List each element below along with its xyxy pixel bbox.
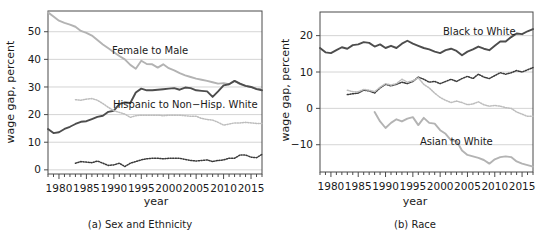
series-label-black-to-white: Black to White	[443, 26, 516, 37]
series-label-female-to-male: Female to Male	[112, 45, 188, 56]
panel-a-ytick-labels: 01020304050	[28, 25, 41, 175]
xtick-label: 1995	[128, 182, 155, 194]
xtick-label: 1995	[399, 180, 426, 192]
panel-a-ylabel: wage gap, percent	[4, 40, 17, 144]
ytick-label: 20	[28, 108, 41, 120]
xtick-label: 1980	[318, 180, 345, 192]
panel-a-frame	[48, 11, 262, 174]
xtick-label: 2010	[210, 182, 237, 194]
xtick-label: 2005	[183, 182, 210, 194]
xtick-label: 2000	[427, 180, 454, 192]
xtick-label: 1985	[73, 182, 100, 194]
panel-a-xtick-labels: 19801985199019952000200520102015	[46, 182, 265, 194]
ytick-label: 40	[28, 53, 41, 65]
xtick-label: 2015	[509, 180, 536, 192]
ytick-label: −10	[291, 138, 313, 150]
xtick-label: 1980	[46, 182, 73, 194]
series-line-dark-dotted-series	[75, 154, 262, 166]
panel-a-svg: 01020304050 1980198519901995200020052010…	[0, 0, 275, 241]
ytick-label: 30	[28, 81, 41, 93]
chart-panel-sex-and-ethnicity: 01020304050 1980198519901995200020052010…	[0, 0, 275, 241]
panel-a-series-group	[48, 12, 262, 166]
xtick-label: 2005	[454, 180, 481, 192]
panel-b-svg: −1001020 1980198519901995200020052010201…	[275, 0, 550, 241]
xtick-label: 2015	[238, 182, 265, 194]
xtick-label: 1990	[372, 180, 399, 192]
series-label-hispanic-to-non-hisp-white: Hispanic to Non−Hisp. White	[113, 99, 258, 110]
panel-b-xtick-labels: 19801985199019952000200520102015	[318, 180, 536, 192]
panel-b-ytick-labels: −1001020	[291, 29, 313, 150]
ytick-label: 20	[300, 29, 313, 41]
panel-a-caption: (a) Sex and Ethnicity	[88, 219, 192, 230]
ytick-label: 10	[300, 66, 313, 78]
ytick-label: 50	[28, 25, 41, 37]
panel-b-ylabel: wage gap, percent	[279, 38, 292, 142]
ytick-label: 0	[306, 102, 313, 114]
panel-a-xlabel: year	[144, 195, 169, 208]
panel-b-xlabel: year	[403, 195, 428, 208]
xtick-label: 1985	[345, 180, 372, 192]
series-label-asian-to-white: Asian to White	[420, 136, 493, 147]
panel-b-gridlines	[320, 36, 533, 145]
chart-panel-race: −1001020 1980198519901995200020052010201…	[275, 0, 550, 241]
figure-wage-gap-charts: 01020304050 1980198519901995200020052010…	[0, 0, 550, 241]
ytick-label: 0	[34, 163, 41, 175]
xtick-label: 1990	[100, 182, 127, 194]
panel-b-caption: (b) Race	[394, 219, 436, 230]
ytick-label: 10	[28, 136, 41, 148]
xtick-label: 2000	[155, 182, 182, 194]
xtick-label: 2010	[481, 180, 508, 192]
